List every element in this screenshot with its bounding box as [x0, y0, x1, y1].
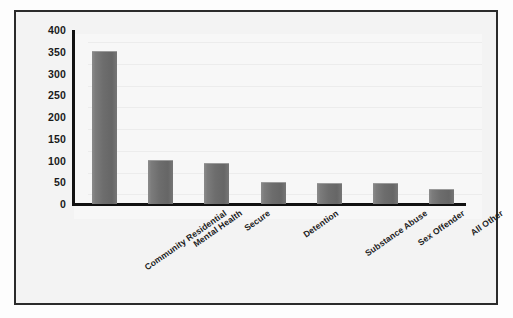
- y-axis-tick-label: 150: [22, 133, 66, 145]
- y-axis-tick-labels: 400350300250200150100500: [18, 0, 66, 318]
- x-axis-category-label: Substance Abuse: [363, 208, 429, 258]
- x-axis-category-labels: Community ResidentialMental HealthSecure…: [72, 208, 492, 308]
- x-axis-category-label: Community Residential: [142, 208, 228, 272]
- y-axis-tick-label: 350: [22, 46, 66, 58]
- y-axis-tick-label: 0: [22, 198, 66, 210]
- y-axis-tick-label: 50: [22, 176, 66, 188]
- x-axis-category-label: All Other: [469, 208, 505, 238]
- bar: [92, 51, 117, 204]
- bar: [373, 183, 398, 204]
- x-axis-category-label: Secure: [242, 208, 272, 233]
- bar: [261, 182, 286, 204]
- y-axis-tick-label: 200: [22, 111, 66, 123]
- y-axis-tick-label: 400: [22, 24, 66, 36]
- bar-series: [72, 30, 466, 204]
- bar: [317, 183, 342, 204]
- x-axis-category-label: Detention: [301, 208, 340, 239]
- y-axis-tick-label: 250: [22, 89, 66, 101]
- chart-figure: 400350300250200150100500 Community Resid…: [0, 0, 513, 318]
- y-axis-tick-label: 300: [22, 68, 66, 80]
- bar: [204, 163, 229, 204]
- y-axis-tick-label: 100: [22, 155, 66, 167]
- bar: [429, 189, 454, 204]
- bar: [148, 160, 173, 204]
